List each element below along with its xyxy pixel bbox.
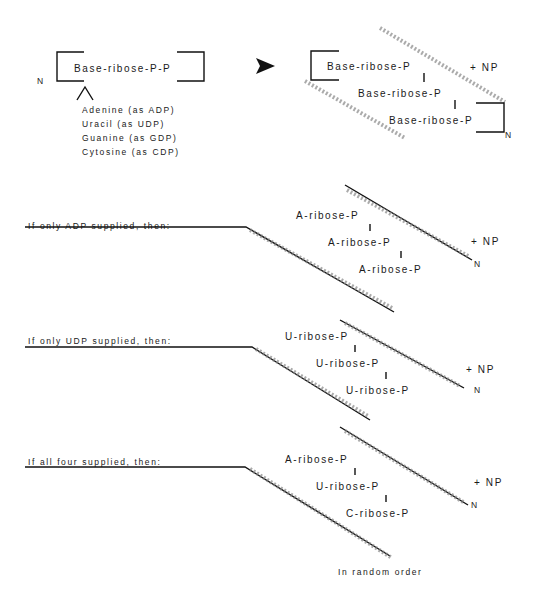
section-udp-heading: If only UDP supplied, then: [28,336,172,346]
section-adp: If only ADP supplied, then: A-ribose-P A… [25,185,500,312]
base-cytosine: Cytosine (as CDP) [82,147,180,157]
polymer-n-label: N [505,130,513,140]
polymer-group: Base-ribose-P Base-ribose-P Base-ribose-… [305,28,513,140]
n-label: N [474,259,482,269]
row-1: A-ribose-P [296,210,359,221]
row-2: A-ribose-P [328,237,391,248]
random-order-note: In random order [338,567,422,577]
row-3: U-ribose-P [346,385,410,396]
monomer-label: Base-ribose-P-P [74,63,171,74]
base-adenine: Adenine (as ADP) [82,105,175,115]
monomer-group: N Base-ribose-P-P Adenine (as ADP) Uraci… [37,52,204,157]
row-3: C-ribose-P [346,508,410,519]
base-guanine: Guanine (as GDP) [82,133,178,143]
n-label: N [474,385,482,395]
polymer-row-1: Base-ribose-P [327,61,411,72]
plus-np: + NP [471,236,500,247]
polymer-right-bracket [476,103,504,132]
row-1: U-ribose-P [285,331,349,342]
monomer-n-label: N [37,76,45,86]
plus-np: + NP [466,364,495,375]
row-2: U-ribose-P [316,358,380,369]
row-2: U-ribose-P [316,481,380,492]
section-all-four: If all four supplied, then: A-ribose-P U… [25,427,503,577]
plus-np: + NP [470,62,499,73]
n-label: N [471,500,479,510]
caret-branch [77,87,93,100]
row-1: A-ribose-P [285,454,348,465]
diagram: N Base-ribose-P-P Adenine (as ADP) Uraci… [0,0,546,605]
plus-np: + NP [474,477,503,488]
section-adp-heading: If only ADP supplied, then: [28,221,171,231]
row-3: A-ribose-P [359,264,422,275]
right-arrow-icon [237,58,275,74]
polymer-row-2: Base-ribose-P [358,88,442,99]
polymer-row-3: Base-ribose-P [389,115,473,126]
section-all-four-heading: If all four supplied, then: [28,457,161,467]
right-bracket [177,52,204,81]
section-udp: If only UDP supplied, then: U-ribose-P U… [25,320,495,420]
base-uracil: Uracil (as UDP) [82,119,165,129]
